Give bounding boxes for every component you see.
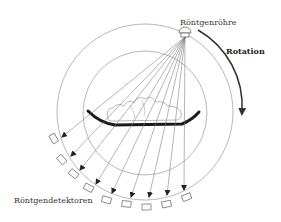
detector <box>161 200 171 208</box>
outer-gantry-circle <box>57 24 233 200</box>
x-ray-tube-icon <box>179 27 191 37</box>
patient-table <box>88 111 199 125</box>
patient-outline <box>107 98 181 121</box>
detector <box>101 196 111 204</box>
x-ray-beams <box>62 37 185 197</box>
detector <box>83 183 94 193</box>
detector <box>122 200 132 207</box>
rotation-arrow <box>198 30 242 112</box>
diagram-canvas <box>0 0 281 222</box>
detector <box>142 204 151 210</box>
detectors-label: Röntgendetektoren <box>14 197 93 205</box>
detector <box>49 133 59 144</box>
x-ray-tube-label: Röntgenröhre <box>180 19 237 27</box>
detector <box>181 193 192 202</box>
detector <box>56 154 66 165</box>
detector <box>68 169 79 179</box>
rotation-label: Rotation <box>226 47 265 55</box>
ct-scanner-diagram: Röntgenröhre Rotation Röntgendetektoren <box>0 0 281 222</box>
patient-head-detail <box>130 100 145 119</box>
